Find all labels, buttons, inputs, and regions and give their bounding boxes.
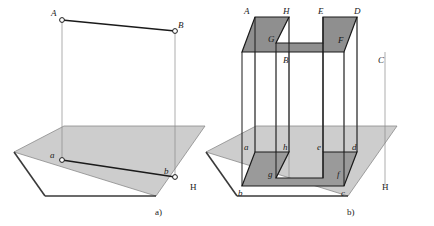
- panel-a-vertex-a-marker: [60, 158, 65, 163]
- panel-b-label-d: d: [352, 142, 357, 152]
- panel-a-label-A: A: [50, 8, 57, 18]
- panel-b-label-plane-h: H: [382, 182, 389, 192]
- panel-a-vertex-b-marker: [173, 175, 178, 180]
- panel-b-label-E: E: [317, 6, 324, 16]
- panel-a-label-B: B: [178, 20, 184, 30]
- panel-a-plane-h: [14, 126, 205, 196]
- panel-b-label-H: H: [282, 6, 290, 16]
- panel-b-label-a: a: [244, 142, 249, 152]
- panel-a-label-b: b: [164, 166, 169, 176]
- panel-a-caption: a): [155, 207, 162, 217]
- panel-b-label-e: e: [317, 142, 321, 152]
- panel-b-label-g: g: [268, 169, 273, 179]
- panel-a-vertex-B-marker: [173, 29, 178, 34]
- panel-b-label-B: B: [283, 55, 289, 65]
- panel-a: A B a b H a): [14, 8, 205, 217]
- panel-b-label-h: h: [283, 142, 288, 152]
- panel-b: A H E D G F B C a h e d g f b c H b): [206, 6, 397, 217]
- figure-svg: A B a b H a): [0, 0, 434, 226]
- panel-a-vertex-A-marker: [60, 18, 65, 23]
- panel-b-caption: b): [347, 207, 355, 217]
- panel-b-label-C: C: [378, 55, 385, 65]
- panel-b-label-F: F: [337, 35, 344, 45]
- panel-b-label-c: c: [341, 188, 345, 198]
- panel-b-label-A: A: [243, 6, 250, 16]
- panel-b-label-b: b: [238, 188, 243, 198]
- panel-a-segment-AB: [62, 20, 175, 31]
- panel-a-label-plane-h: H: [190, 182, 197, 192]
- panel-a-label-a: a: [50, 150, 55, 160]
- panel-b-label-G: G: [268, 34, 275, 44]
- panel-b-label-D: D: [353, 6, 361, 16]
- projection-figure: A B a b H a): [0, 0, 434, 226]
